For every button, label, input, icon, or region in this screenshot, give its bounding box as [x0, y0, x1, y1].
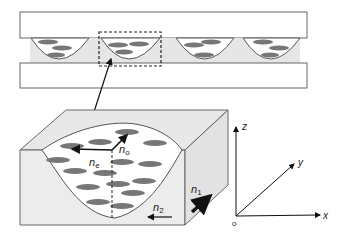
- y-axis: [236, 164, 294, 216]
- lens-3d-block: ne no n1 n2: [20, 110, 228, 225]
- x-axis: [236, 215, 320, 216]
- z-axis-label: z: [241, 121, 247, 132]
- top-glass-substrate: [20, 12, 307, 38]
- origin-label: o: [232, 219, 237, 228]
- lc-lens-diagram: ne no n1 n2 z y x o: [0, 0, 346, 237]
- bottom-glass-substrate: [20, 63, 307, 88]
- ne-arrow: [72, 149, 112, 150]
- coordinate-axes: z y x o: [232, 121, 329, 228]
- y-axis-label: y: [297, 157, 304, 168]
- x-axis-label: x: [322, 210, 329, 221]
- top-cell-panel: [20, 12, 307, 88]
